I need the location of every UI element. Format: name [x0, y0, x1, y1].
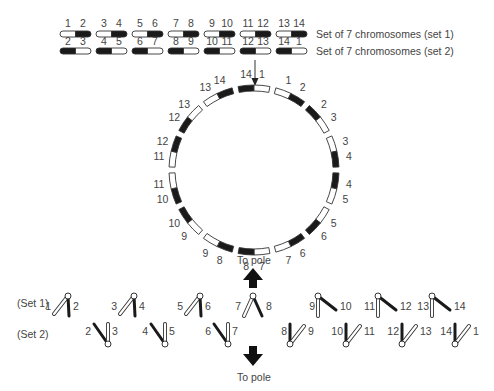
ring-arm-label: 4	[346, 178, 352, 190]
ring-arm-label: 8	[217, 254, 223, 266]
arm-label: 7	[152, 35, 158, 47]
arm-label: 3	[112, 325, 118, 337]
ring-chromosome-4-5: 45	[326, 173, 352, 205]
chromosome-set2-2	[132, 48, 163, 54]
set1-segregating-pair: 78	[235, 293, 272, 316]
ring-arm-label: 1	[259, 68, 265, 80]
set2-segregating-pair: 45	[142, 324, 175, 347]
ring-arm-label: 14	[240, 68, 252, 80]
set1-segregating-pair: 1314	[417, 293, 466, 316]
ring-arm-label: 9	[202, 247, 208, 259]
ring-arm-label: 11	[154, 178, 165, 190]
arm-label: 10	[331, 325, 343, 337]
ring-chromosome-8-9: 89	[202, 233, 233, 265]
ring-chromosome-12-13: 1213	[168, 98, 202, 133]
chromosome-set2-4	[204, 48, 235, 54]
ring-arm-label: 2	[321, 98, 327, 110]
arm-label: 1	[473, 325, 479, 337]
arm-label: 4	[101, 35, 107, 47]
ring-arm-label: 7	[285, 254, 291, 266]
arm-label: 5	[177, 300, 183, 312]
arm-label: 4	[116, 17, 122, 29]
set1-segregating-pair: 56	[177, 293, 211, 316]
set2-segregating-pair: 141	[440, 324, 479, 347]
ring-arm-label: 14	[214, 74, 226, 86]
legend-set-1: Set of 7 chromosomes (set 1)	[316, 28, 454, 40]
ring-chromosome-9-10: 910	[168, 207, 202, 242]
arm-label: 2	[85, 325, 91, 337]
ring-arm-label: 6	[321, 230, 327, 242]
arm-label: 12	[257, 17, 269, 29]
ring-arm-label: 2	[300, 81, 306, 93]
chromosome-set2-6	[276, 48, 307, 54]
arm-label: 6	[137, 35, 143, 47]
segregation-figure: 12345678910111213142345678910111213141	[45, 293, 479, 347]
chromosome-set2-0	[60, 48, 91, 54]
ring-arm-label: 12	[168, 111, 180, 123]
arm-label: 9	[209, 17, 215, 29]
arm-label: 9	[309, 300, 315, 312]
ring-chromosome-1-2: 12	[274, 74, 305, 106]
chromosome-set2-1	[96, 48, 127, 54]
ring-chromosome-11-12: 1112	[154, 135, 182, 167]
arm-label: 13	[420, 325, 432, 337]
set1-segregating-pair: 34	[111, 293, 145, 316]
arm-label: 7	[173, 17, 179, 29]
arm-label: 4	[142, 325, 148, 337]
arm-label: 7	[232, 325, 238, 337]
set1-segregating-pair: 12	[45, 293, 79, 316]
arm-label: 12	[242, 35, 254, 47]
arm-label: 2	[80, 17, 86, 29]
down-arrow-icon	[252, 60, 259, 86]
arm-label: 3	[111, 300, 117, 312]
arm-label: 6	[205, 300, 211, 312]
arm-label: 6	[205, 325, 211, 337]
set2-segregating-pair: 1011	[331, 324, 375, 347]
arm-label: 14	[454, 300, 466, 312]
translocation-ring-diagram: 12345678910111213142345678910111213141 S…	[0, 0, 494, 391]
set2-segregating-pair: 67	[205, 324, 238, 347]
ring-chromosome-10-11: 1011	[154, 173, 182, 205]
arm-label: 2	[65, 35, 71, 47]
arm-label: 4	[139, 300, 145, 312]
chromosome-set2-3	[168, 48, 199, 54]
arm-label: 5	[169, 325, 175, 337]
ring-chromosome-6-7: 67	[274, 233, 305, 265]
arm-label: 13	[417, 300, 429, 312]
ring-arm-label: 13	[178, 98, 190, 110]
arm-label: 14	[293, 17, 305, 29]
arm-label: 13	[278, 17, 290, 29]
set2-segregating-pair: 1213	[387, 324, 432, 347]
chromosome-sets-rows: 12345678910111213142345678910111213141	[60, 17, 307, 54]
arm-label: 9	[188, 35, 194, 47]
arm-label: 6	[152, 17, 158, 29]
arm-label: 8	[188, 17, 194, 29]
set-1-row-label: (Set 1)	[17, 297, 49, 309]
arm-label: 10	[221, 17, 233, 29]
arm-label: 11	[243, 17, 254, 29]
arm-label: 5	[116, 35, 122, 47]
ring-arm-label: 1	[285, 74, 291, 86]
ring-chromosome-2-3: 23	[305, 98, 336, 133]
ring-arm-label: 11	[154, 150, 165, 162]
arm-label: 8	[173, 35, 179, 47]
chromosome-set2-5	[240, 48, 271, 54]
ring-arm-label: 6	[300, 247, 306, 259]
ring-arm-label: 5	[343, 193, 349, 205]
ring-arm-label: 3	[331, 111, 337, 123]
set-2-row-label: (Set 2)	[17, 328, 49, 340]
arm-label: 14	[440, 325, 452, 337]
arm-label: 5	[137, 17, 143, 29]
ring-arm-label: 3	[343, 135, 349, 147]
arm-label: 8	[281, 325, 287, 337]
arm-label: 10	[206, 35, 218, 47]
ring-chromosome-3-4: 34	[326, 135, 352, 167]
down-arrow-icon	[243, 346, 263, 366]
set2-segregating-pair: 89	[281, 324, 314, 347]
to-pole-bottom-label: To pole	[237, 371, 271, 383]
ring-arm-label: 10	[157, 193, 169, 205]
set1-segregating-pair: 910	[309, 293, 352, 316]
chromosome-ring: 14112233445566778899101011111212131314	[154, 68, 353, 271]
ring-arm-label: 5	[331, 217, 337, 229]
ring-arm-label: 9	[181, 230, 187, 242]
